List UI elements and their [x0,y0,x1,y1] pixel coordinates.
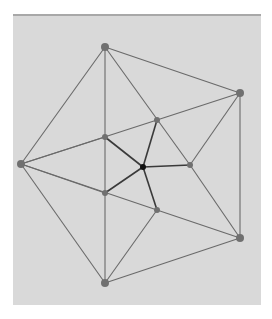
graph-edge [157,93,240,120]
graph-edge [190,93,240,165]
graph-node [102,134,108,140]
graph-edge [105,167,143,193]
graph-edge [143,165,190,167]
graph-edge [105,137,143,167]
graph-node [187,162,193,168]
graph-edge [21,164,105,283]
graph-canvas [0,0,272,319]
graph-edge [105,238,240,283]
graph-node [154,207,160,213]
graph-node [236,234,244,242]
graph-edge [143,120,157,167]
graph-node [102,190,108,196]
graph-node [236,89,244,97]
graph-edge [105,210,157,283]
graph-edge [157,210,240,238]
graph-edge [21,47,105,164]
graph-node [101,43,109,51]
graph-edge [21,120,157,164]
graph-node [101,279,109,287]
graph-edge [190,165,240,238]
graph-node [17,160,25,168]
graph-node [140,164,146,170]
graph-edge [105,47,240,93]
graph-node [154,117,160,123]
graph-edge [143,167,157,210]
